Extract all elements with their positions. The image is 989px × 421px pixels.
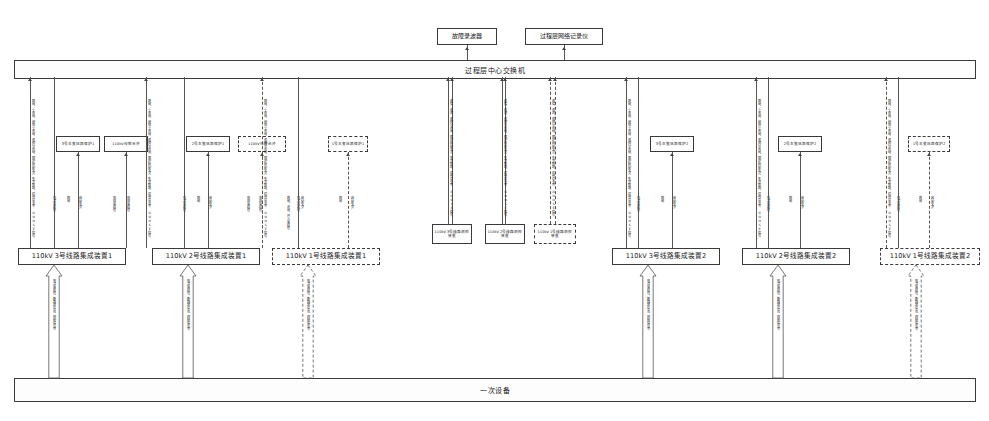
parrow-3: 电流采样值、断路器位置、控制信号等 (300, 265, 316, 378)
dev-l2-1[interactable]: 110kV 2号线路集成装置1 (152, 248, 260, 265)
ann-7-arrow-icon (624, 78, 628, 81)
meas-l3-arrow-icon (450, 78, 454, 81)
parrow-3-text: 电流采样值、断路器位置、控制信号等 (306, 279, 309, 330)
prot-t2-2-arrow-icon (798, 153, 802, 156)
fault-recorder-arrow-icon (465, 47, 469, 50)
dev-l3-2[interactable]: 110kV 3号线路集成装置2 (612, 248, 720, 265)
ba-1-line (54, 77, 55, 248)
process-layer-central-switch-bus[interactable]: 过程层中心交换机 (14, 60, 976, 79)
sa-5-text: 跳闸 (196, 196, 199, 202)
process-net-recorder-arrow-icon (562, 47, 566, 50)
ann-6-text: 遥信、遥测、遥控分合闸、保护启动失灵、失灵联跳、远传命令等 GOOSE信号 (552, 99, 555, 216)
process-net-recorder-label: 过程层网络记录仪 (539, 33, 589, 40)
diagram-canvas: 过程层中心交换机一次设备故障录波器过程层网络记录仪110kV 3号线路集成装置1… (0, 0, 989, 421)
parrow-4: 电流采样值、断路器位置、控制信号等 (640, 265, 656, 378)
meas-l3-label: 110kV 3号线路测控装置 (433, 230, 471, 238)
ann-9-text: 跳闸、重合闸、闭锁重合闸、遥控分合闸、保护启动失灵、失灵联跳、远传命令等 GOO… (888, 99, 891, 237)
dev-l1-1[interactable]: 110kV 1号线路集成装置1 (272, 248, 380, 265)
ann-3-arrow-icon (260, 78, 264, 81)
parrow-4-text: 电流采样值、断路器位置、控制信号等 (646, 279, 649, 330)
sa-6-text: 启动失灵 (208, 196, 211, 208)
ann-3-text: 跳闸、重合闸、闭锁重合闸、遥控分合闸、保护启动失灵、失灵联跳、远传命令等 GOO… (264, 99, 267, 237)
sa-7-text: 电压采样值 (246, 196, 249, 211)
ann-1-arrow-icon (28, 78, 32, 81)
parrow-6-text: 电流采样值、断路器位置、控制信号等 (914, 279, 917, 330)
ba-5-line (768, 77, 769, 248)
prot-t1-2-label: 1号主变压器保护2 (912, 142, 947, 146)
prot-t2-2[interactable]: 2号主变压器保护2 (778, 136, 822, 152)
meas-l1-label: 110kV 1号线路测控装置 (535, 230, 575, 238)
ba-2-line (184, 77, 185, 248)
ann-4-arrow-icon (446, 78, 450, 81)
meas-l2[interactable]: 110kV 2号线路测控装置 (485, 224, 525, 244)
ann-2-arrow-icon (144, 78, 148, 81)
sa-18-text: 启动失灵 (930, 196, 933, 208)
dev-l2-1-label: 110kV 2号线路集成装置1 (165, 253, 247, 260)
dev-l3-2-label: 110kV 3号线路集成装置2 (625, 253, 707, 260)
parrow-1-text: 电流采样值、断路器位置、控制信号等 (52, 279, 55, 330)
prot-t3-1-arrow-icon (76, 153, 80, 156)
ba-6-line (898, 77, 899, 248)
prot-t3-1-label: 3号主变压器保护1 (61, 142, 96, 146)
primary-equipment-label: 一次设备 (480, 385, 510, 395)
fault-recorder-label: 故障录波器 (451, 33, 483, 40)
ann-8-arrow-icon (754, 78, 758, 81)
sa-9-text: 跳闸、合闸、开入采样值 (286, 196, 289, 229)
sa-1-text: 跳闸 (66, 196, 69, 202)
ann-2-text: 跳闸、重合闸、闭锁重合闸、遥控分合闸、保护启动失灵、失灵联跳、远传命令等 GOO… (148, 99, 151, 237)
sa-13-text: 跳闸 (660, 196, 663, 202)
meas-l3[interactable]: 110kV 3号线路测控装置 (432, 224, 472, 244)
ann-1-text: 跳闸、重合闸、闭锁重合闸、遥控分合闸、保护启动失灵、失灵联跳、远传命令等 GOO… (32, 99, 35, 237)
prot-t1-1-arrow-icon (346, 153, 350, 156)
sa-16-text: 启动失灵 (800, 196, 803, 208)
sa-17-text: 跳闸 (918, 196, 921, 202)
fault-recorder[interactable]: 故障录波器 (437, 28, 497, 45)
bus-coupler-1[interactable]: 110kV母联合并 (104, 136, 148, 152)
bus-coupler-1-label: 110kV母联合并 (111, 142, 140, 146)
parrow-2: 电流采样值、断路器位置、控制信号等 (180, 265, 196, 378)
meas-l2-label: 110kV 2号线路测控装置 (486, 230, 524, 238)
sa-15-text: 跳闸 (788, 196, 791, 202)
ann-5-arrow-icon (500, 78, 504, 81)
dev-l1-2-label: 110kV 1号线路集成装置2 (889, 253, 971, 260)
dev-l3-1-label: 110kV 3号线路集成装置1 (31, 253, 113, 260)
prot-t2-1-arrow-icon (206, 153, 210, 156)
ann-9-arrow-icon (884, 78, 888, 81)
meas-l1-arrow-icon (553, 78, 557, 81)
ann-7-text: 跳闸、重合闸、闭锁重合闸、遥控分合闸、保护启动失灵、失灵联跳、远传命令等 GOO… (628, 99, 631, 237)
prot-t2-2-label: 2号主变压器保护2 (783, 142, 818, 146)
prot-t1-1-label: 1号主变压器保护1 (331, 142, 366, 146)
meas-l1[interactable]: 110kV 1号线路测控装置 (534, 224, 576, 244)
prot-t1-2[interactable]: 1号主变压器保护2 (908, 136, 950, 152)
sa-4-text: 电压采样值 (126, 196, 129, 211)
ann-5-text: 遥信、遥测、遥控分合闸、保护启动失灵、失灵联跳、远传命令等 GOOSE信号 (504, 99, 507, 216)
dev-l3-1[interactable]: 110kV 3号线路集成装置1 (18, 248, 126, 265)
ba-3-line (298, 77, 299, 248)
sa-14-text: 启动失灵 (672, 196, 675, 208)
ann-4-text: 遥信、遥测、遥控分合闸、保护启动失灵、失灵联跳、远传命令等 GOOSE信号 (450, 99, 453, 216)
prot-t2-1-label: 2号主变压器保护1 (191, 142, 226, 146)
prot-t3-1[interactable]: 3号主变压器保护1 (56, 136, 100, 152)
parrow-1: 电流采样值、断路器位置、控制信号等 (46, 265, 62, 378)
dev-l1-2[interactable]: 110kV 1号线路集成装置2 (880, 248, 980, 265)
process-net-recorder[interactable]: 过程层网络记录仪 (525, 28, 603, 45)
sa-3-text: 电压采样值 (112, 196, 115, 211)
process-layer-central-switch-label: 过程层中心交换机 (465, 65, 525, 75)
sa-2-text: 启动失灵 (78, 196, 81, 208)
prot-t1-1[interactable]: 1号主变压器保护1 (328, 136, 368, 152)
prot-t1-1-down-link (348, 152, 349, 248)
sa-11-text: 跳闸 (338, 196, 341, 202)
sa-12-text: 启动失灵 (350, 196, 353, 208)
bus-coupler-1-arrow-icon (124, 153, 128, 156)
ann-6-arrow-icon (548, 78, 552, 81)
primary-equipment-bus[interactable]: 一次设备 (14, 378, 976, 402)
prot-t2-1[interactable]: 2号主变压器保护1 (186, 136, 230, 152)
prot-t3-2-arrow-icon (670, 153, 674, 156)
dev-l1-1-label: 110kV 1号线路集成装置1 (285, 253, 367, 260)
parrow-6: 电流采样值、断路器位置、控制信号等 (908, 265, 924, 378)
prot-t3-2[interactable]: 3号主变压器保护2 (650, 136, 694, 152)
prot-t1-2-arrow-icon (927, 153, 931, 156)
ann-8-text: 跳闸、重合闸、闭锁重合闸、遥控分合闸、保护启动失灵、失灵联跳、远传命令等 GOO… (758, 99, 761, 237)
sa-8-text: 电压采样值 (258, 196, 261, 211)
dev-l2-2[interactable]: 110kV 2号线路集成装置2 (742, 248, 850, 265)
